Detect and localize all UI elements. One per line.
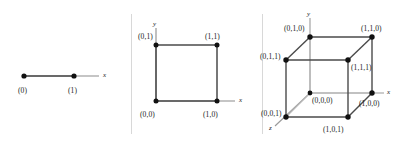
panel-three-dimensional: y x z (0,0,0) (1,0,0) (0,1,0) (1,1,0) (0… [262,0,409,148]
vertex-label-0-0-0: (0,0,0) [312,97,333,105]
cube-edge-origin-to-001 [286,93,310,117]
panel-one-dimensional: x (0) (1) [0,0,131,148]
x-axis-label: x [239,97,242,104]
vertex-label-0: (0) [18,87,27,95]
vertex-label-1-1-1: (1,1,1) [351,64,372,72]
cube-edge-110-111 [348,37,372,60]
vertex-0-1-1 [283,57,288,62]
x-axis-label: x [387,89,390,96]
vertex-1-1-0 [369,34,374,39]
vertex-label-0-1-0: (0,1,0) [284,25,305,33]
two-dimensional-drawing [131,0,262,148]
vertex-0-0-1 [283,114,288,119]
x-axis-label: x [103,72,106,79]
vertex-1 [71,73,76,78]
y-axis-label: y [307,11,310,18]
cube-edge-010-011 [286,37,310,60]
z-axis-label: z [269,125,272,132]
vertex-0-0-0 [308,91,313,96]
y-axis-label: y [153,21,156,28]
vertex-label-0-0-1: (0,0,1) [261,110,282,118]
vertex-1-0 [215,99,220,104]
vertex-1-0-1 [345,114,350,119]
vertex-0-1-0 [307,34,312,39]
vertex-label-1: (1) [68,87,77,95]
vertex-label-0-1: (0,1) [138,33,153,41]
vertex-label-1-1-0: (1,1,0) [361,25,382,33]
vertex-0-0 [154,99,159,104]
unit-cell-figure: x (0) (1) x y (0,0) (1,0) (0,1) (1,1) [0,0,409,148]
one-dimensional-drawing [0,0,131,148]
vertex-1-1 [215,43,220,48]
vertex-label-1-0-1: (1,0,1) [323,126,344,134]
vertex-1-1-1 [345,57,350,62]
vertex-0-1 [154,43,159,48]
vertex-label-1-0-0: (1,0,0) [359,100,380,108]
vertex-label-1-1: (1,1) [205,33,220,41]
panel-two-dimensional: x y (0,0) (1,0) (0,1) (1,1) [131,0,262,148]
vertex-label-0-0: (0,0) [140,111,155,119]
vertex-0 [21,73,26,78]
vertex-label-0-1-1: (0,1,1) [260,53,281,61]
vertex-label-1-0: (1,0) [203,111,218,119]
vertex-1-0-0 [369,90,374,95]
